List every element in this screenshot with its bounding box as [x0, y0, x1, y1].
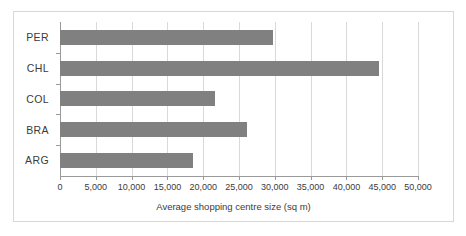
- bar-chl: [60, 61, 379, 76]
- bar-row: CHL: [60, 53, 418, 84]
- x-tick-35000: [311, 176, 312, 180]
- plot-area: PERCHLCOLBRAARG: [60, 22, 418, 176]
- x-tick-10000: [132, 176, 133, 180]
- y-tick-label-arg: ARG: [25, 155, 49, 166]
- y-tick-label-per: PER: [26, 32, 49, 43]
- x-tick-label: 30,000: [261, 183, 289, 192]
- x-tick-label: 40,000: [333, 183, 361, 192]
- x-tick-label: 15,000: [154, 183, 182, 192]
- x-tick-label: 35,000: [297, 183, 325, 192]
- bar-row: BRA: [60, 114, 418, 145]
- y-tick: [56, 145, 60, 146]
- x-tick-15000: [167, 176, 168, 180]
- x-axis-title: Average shopping centre size (sq m): [14, 201, 453, 212]
- bar-row: COL: [60, 84, 418, 115]
- y-tick-label-bra: BRA: [26, 125, 49, 136]
- x-tick-5000: [96, 176, 97, 180]
- x-tick-45000: [382, 176, 383, 180]
- x-tick-label: 50,000: [404, 183, 432, 192]
- x-tick-40000: [346, 176, 347, 180]
- bar-col: [60, 91, 215, 106]
- bar-row: PER: [60, 22, 418, 53]
- x-tick-label: 25,000: [225, 183, 253, 192]
- y-tick: [56, 114, 60, 115]
- x-tick-label: 0: [57, 183, 62, 192]
- x-tick-label: 10,000: [118, 183, 146, 192]
- x-tick-20000: [203, 176, 204, 180]
- bar-arg: [60, 153, 193, 168]
- y-tick-label-col: COL: [26, 94, 49, 105]
- bar-row: ARG: [60, 145, 418, 176]
- bar-per: [60, 30, 273, 45]
- x-tick-label: 5,000: [85, 183, 108, 192]
- y-tick-label-chl: CHL: [27, 63, 49, 74]
- x-tick-50000: [418, 176, 419, 180]
- chart-figure: PERCHLCOLBRAARG Average shopping centre …: [13, 11, 454, 222]
- bar-bra: [60, 122, 247, 137]
- x-tick-label: 45,000: [368, 183, 396, 192]
- gridline-50000: [418, 22, 419, 176]
- y-tick: [56, 84, 60, 85]
- x-tick-label: 20,000: [189, 183, 217, 192]
- y-tick: [56, 53, 60, 54]
- x-tick-0: [60, 176, 61, 180]
- x-tick-25000: [239, 176, 240, 180]
- x-tick-30000: [275, 176, 276, 180]
